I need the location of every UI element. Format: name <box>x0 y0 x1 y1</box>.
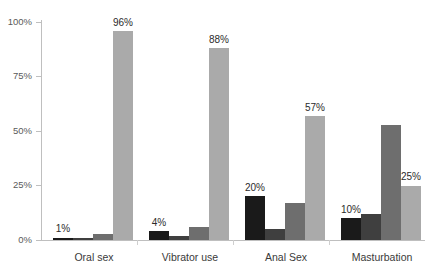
bar-vibrator-use-series-1 <box>149 231 169 240</box>
bar-anal-sex-series-4 <box>305 116 325 240</box>
bar-chart: 100% 75% 50% 25% 0% 1% 96% 4% 88% <box>0 0 430 277</box>
bar-group-oral-sex: 1% 96% <box>51 22 137 240</box>
category-separator <box>137 240 138 245</box>
bar-anal-sex-series-1 <box>245 196 265 240</box>
category-label-vibrator-use: Vibrator use <box>147 252 233 263</box>
plot-area: 1% 96% 4% 88% 20% 57% 10% <box>41 22 425 240</box>
bar-label-oral-sex-series-1: 1% <box>41 224 85 234</box>
bar-masturbation-series-1 <box>341 218 361 240</box>
bar-label-oral-sex-series-4: 96% <box>101 18 145 28</box>
bar-vibrator-use-series-4 <box>209 48 229 240</box>
y-tick-label-0: 0% <box>0 235 32 245</box>
bar-vibrator-use-series-3 <box>189 227 209 240</box>
bar-label-vibrator-use-series-1: 4% <box>137 218 181 228</box>
bar-label-anal-sex-series-1: 20% <box>233 183 277 193</box>
bar-group-vibrator-use: 4% 88% <box>147 22 233 240</box>
y-tick-label-100: 100% <box>0 17 32 27</box>
bar-group-masturbation: 10% 25% <box>339 22 425 240</box>
bar-oral-sex-series-3 <box>93 234 113 241</box>
bar-label-masturbation-series-4: 25% <box>389 172 430 182</box>
y-tick-label-50: 50% <box>0 126 32 136</box>
bar-group-anal-sex: 20% 57% <box>243 22 329 240</box>
bar-vibrator-use-series-2 <box>169 236 189 240</box>
y-tick-label-75: 75% <box>0 71 32 81</box>
category-separator <box>233 240 234 245</box>
bar-masturbation-series-3 <box>381 125 401 241</box>
bar-masturbation-series-2 <box>361 214 381 240</box>
y-tick-label-25: 25% <box>0 180 32 190</box>
bar-oral-sex-series-4 <box>113 31 133 240</box>
category-label-masturbation: Masturbation <box>339 252 425 263</box>
bar-oral-sex-series-1 <box>53 238 73 240</box>
bar-anal-sex-series-3 <box>285 203 305 240</box>
category-separator <box>329 240 330 245</box>
bar-label-anal-sex-series-4: 57% <box>293 103 337 113</box>
bar-label-masturbation-series-1: 10% <box>329 205 373 215</box>
bar-masturbation-series-4 <box>401 186 421 241</box>
bar-label-vibrator-use-series-4: 88% <box>197 35 241 45</box>
category-label-anal-sex: Anal Sex <box>243 252 329 263</box>
category-label-oral-sex: Oral sex <box>51 252 137 263</box>
bar-oral-sex-series-2 <box>73 238 93 240</box>
bar-anal-sex-series-2 <box>265 229 285 240</box>
